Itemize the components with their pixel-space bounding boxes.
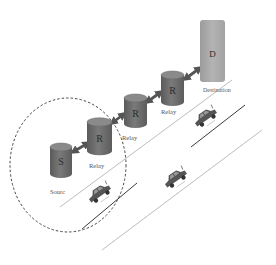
link-s-r1 bbox=[73, 143, 88, 152]
link-r1-r2 bbox=[112, 114, 124, 123]
node-letter: D bbox=[209, 49, 216, 59]
node-label: Relay bbox=[122, 134, 138, 141]
node-label: Relay bbox=[89, 162, 105, 169]
relay-network-diagram: S Sourc R Relay R Relay R Relay D Destin… bbox=[0, 0, 276, 265]
link-r3-d bbox=[185, 68, 200, 79]
relay-node-2: R Relay bbox=[122, 94, 147, 141]
link-r2-r3 bbox=[147, 92, 161, 102]
node-label: Relay bbox=[161, 108, 177, 115]
road-lower-edge bbox=[102, 130, 262, 250]
node-letter: R bbox=[169, 85, 176, 96]
source-node: S Sourc bbox=[50, 143, 72, 195]
relay-node-1: R Relay bbox=[87, 118, 112, 169]
lane-marking bbox=[191, 105, 245, 147]
car-icon bbox=[192, 105, 220, 131]
lane-marking bbox=[82, 183, 137, 229]
node-letter: R bbox=[132, 108, 139, 119]
node-label: Sourc bbox=[50, 188, 65, 195]
node-label: Destination bbox=[203, 87, 231, 93]
node-letter: R bbox=[96, 133, 103, 144]
node-letter: S bbox=[58, 156, 64, 167]
relay-node-3: R Relay bbox=[161, 71, 184, 115]
destination-node: D Destination bbox=[200, 20, 231, 93]
